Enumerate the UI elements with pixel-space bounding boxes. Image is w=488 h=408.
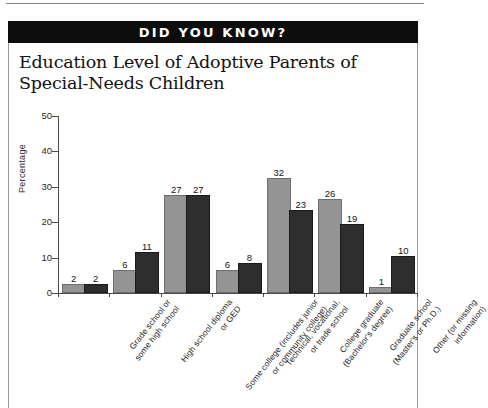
y-tick-label-holder: 10 xyxy=(9,258,52,259)
y-tick-label: 20 xyxy=(24,216,52,227)
bar-series-1-4: 32 xyxy=(267,178,291,293)
bar-chart: Percentage 01020304050 22611272768322326… xyxy=(9,43,419,408)
bar-series-2-1: 11 xyxy=(135,252,159,293)
bar-value-label: 8 xyxy=(247,252,252,263)
bar-series-1-0: 2 xyxy=(62,284,86,293)
x-axis-labels: Grade school orsome high schoolHigh scho… xyxy=(58,297,417,407)
bars-layer: 2261127276832232619110 xyxy=(58,116,417,293)
chart-card: Education Level of Adoptive Parents of S… xyxy=(8,43,418,408)
x-tick xyxy=(417,293,418,297)
bar-value-label: 19 xyxy=(347,213,358,224)
x-axis-line xyxy=(58,293,417,294)
bar-value-label: 26 xyxy=(325,188,336,199)
bar-series-1-3: 6 xyxy=(216,270,240,293)
bar-series-1-1: 6 xyxy=(113,270,137,293)
bar-value-label: 23 xyxy=(295,199,306,210)
bar-series-2-6: 10 xyxy=(391,256,415,293)
bar-series-2-5: 19 xyxy=(340,224,364,293)
bar-series-1-6: 1 xyxy=(369,287,393,293)
y-tick-label-holder: 40 xyxy=(9,151,52,152)
top-rule xyxy=(6,3,424,4)
bar-value-label: 27 xyxy=(171,184,182,195)
did-you-know-banner: DID YOU KNOW? xyxy=(8,21,418,43)
bar-value-label: 6 xyxy=(122,259,127,270)
bar-value-label: 10 xyxy=(398,245,409,256)
y-tick-label-holder: 30 xyxy=(9,187,52,188)
bar-series-2-0: 2 xyxy=(84,284,108,293)
bar-series-1-5: 26 xyxy=(318,199,342,293)
y-tick-label: 30 xyxy=(24,181,52,192)
bar-value-label: 6 xyxy=(225,259,230,270)
x-axis-label-0: Grade school orsome high school xyxy=(123,297,181,363)
y-tick-label-holder: 50 xyxy=(9,116,52,117)
bar-value-label: 27 xyxy=(193,184,204,195)
bar-series-2-2: 27 xyxy=(186,195,210,293)
bar-series-2-4: 23 xyxy=(289,210,313,293)
bar-series-2-3: 8 xyxy=(238,263,262,293)
y-tick-label-holder: 20 xyxy=(9,222,52,223)
bar-value-label: 32 xyxy=(273,167,284,178)
bar-value-label: 1 xyxy=(379,276,384,287)
y-tick-label: 10 xyxy=(24,252,52,263)
y-tick-label: 50 xyxy=(24,110,52,121)
bar-value-label: 11 xyxy=(142,241,152,252)
y-tick-label: 40 xyxy=(24,145,52,156)
bar-value-label: 2 xyxy=(93,273,98,284)
y-tick-label: 0 xyxy=(24,287,52,298)
x-axis-label-1: High school diplomaor GED xyxy=(179,297,243,371)
y-tick-label-holder: 0 xyxy=(9,293,52,294)
bar-series-1-2: 27 xyxy=(164,195,188,293)
bar-value-label: 2 xyxy=(71,273,76,284)
banner-title: DID YOU KNOW? xyxy=(139,25,288,40)
